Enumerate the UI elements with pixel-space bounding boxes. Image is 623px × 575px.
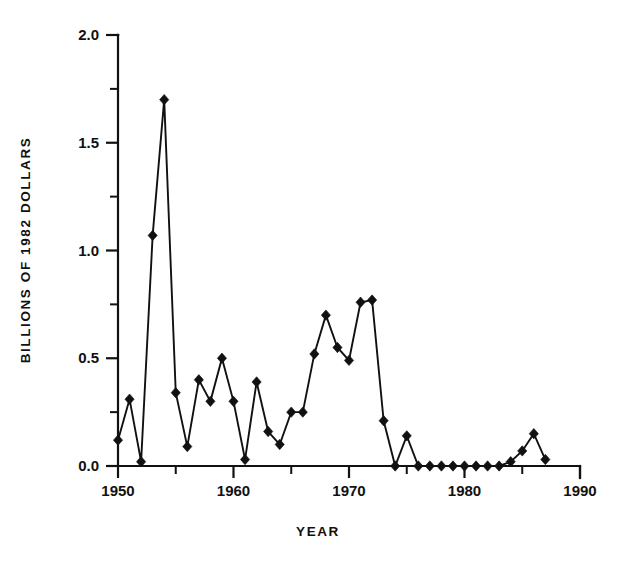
axis-frame [118, 35, 580, 466]
x-tick-label: 1980 [448, 482, 481, 499]
data-point [229, 396, 238, 406]
data-point [448, 461, 457, 471]
data-point [483, 461, 492, 471]
x-tick-label: 1970 [332, 482, 365, 499]
data-point [356, 297, 365, 307]
data-point [321, 310, 330, 320]
data-point [183, 441, 192, 451]
series-markers [113, 94, 550, 471]
x-tick-label: 1950 [101, 482, 134, 499]
data-point [368, 295, 377, 305]
data-point [391, 461, 400, 471]
data-point [194, 375, 203, 385]
y-tick-label: 0.0 [78, 457, 99, 474]
data-point [310, 349, 319, 359]
y-tick-label: 1.0 [78, 242, 99, 259]
data-point [541, 454, 550, 464]
y-tick-label: 0.5 [78, 349, 99, 366]
y-tick-label: 2.0 [78, 26, 99, 43]
data-point [402, 431, 411, 441]
data-point [160, 94, 169, 104]
data-point [437, 461, 446, 471]
axis-group [106, 35, 580, 478]
data-point [425, 461, 434, 471]
x-tick-label: 1960 [217, 482, 250, 499]
data-point [379, 416, 388, 426]
x-axis-tick-labels: 19501960197019801990 [101, 482, 596, 499]
data-series [113, 94, 550, 471]
data-point [217, 353, 226, 363]
x-tick-label: 1990 [563, 482, 596, 499]
data-point [252, 377, 261, 387]
data-point [298, 407, 307, 417]
x-axis-title: YEAR [296, 524, 340, 539]
data-point [495, 461, 504, 471]
data-point [287, 407, 296, 417]
line-chart: 19501960197019801990 0.00.51.01.52.0 BIL… [0, 0, 623, 575]
y-axis-major-ticks [106, 35, 118, 466]
y-axis-tick-labels: 0.00.51.01.52.0 [78, 26, 99, 474]
data-point [206, 396, 215, 406]
x-axis-major-ticks [118, 466, 580, 478]
data-point [240, 454, 249, 464]
data-point [113, 435, 122, 445]
series-line [118, 100, 545, 466]
data-point [125, 394, 134, 404]
data-point [414, 461, 423, 471]
chart-figure: 19501960197019801990 0.00.51.01.52.0 BIL… [0, 0, 623, 575]
data-point [471, 461, 480, 471]
data-point [460, 461, 469, 471]
data-point [148, 230, 157, 240]
y-tick-label: 1.5 [78, 134, 99, 151]
y-axis-title: BILLIONS OF 1982 DOLLARS [18, 137, 33, 364]
data-point [171, 388, 180, 398]
